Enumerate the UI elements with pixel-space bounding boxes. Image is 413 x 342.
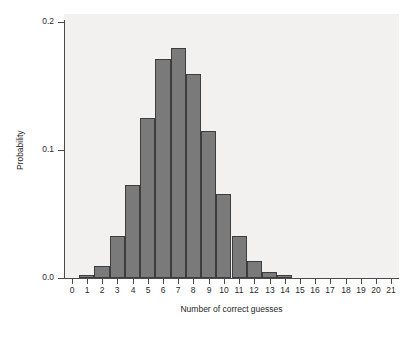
x-axis-tick-mark [254, 279, 255, 284]
probability-histogram-figure: 0.00.10.2 012345678910111213141516171819… [0, 0, 413, 342]
bar [232, 236, 247, 278]
x-axis-tick-mark [391, 279, 392, 284]
x-axis-tick-mark [224, 279, 225, 284]
x-axis-tick-label: 4 [131, 286, 136, 295]
x-axis-tick-mark [163, 279, 164, 284]
x-axis-tick-label: 10 [219, 286, 228, 295]
y-axis-tick-mark [58, 22, 64, 23]
x-axis-tick-mark [148, 279, 149, 284]
x-axis-tick-label: 19 [356, 286, 365, 295]
bar [94, 266, 109, 278]
bar [125, 185, 140, 278]
bar [171, 48, 186, 278]
bar [186, 74, 201, 278]
bar [110, 236, 125, 278]
x-axis-tick-label: 16 [310, 286, 319, 295]
x-axis-tick-mark [315, 279, 316, 284]
x-axis-tick-label: 2 [100, 286, 105, 295]
y-axis-tick-label: 0.0 [26, 273, 54, 282]
x-axis-tick-label: 3 [115, 286, 120, 295]
x-axis-tick-label: 0 [70, 286, 75, 295]
x-axis-tick-mark [270, 279, 271, 284]
x-axis-tick-label: 12 [249, 286, 258, 295]
x-axis-tick-label: 6 [161, 286, 166, 295]
x-axis-tick-mark [178, 279, 179, 284]
x-axis-tick-label: 20 [371, 286, 380, 295]
x-axis-tick-label: 15 [295, 286, 304, 295]
x-axis-tick-mark [72, 279, 73, 284]
x-axis-tick-mark [102, 279, 103, 284]
x-axis-tick-mark [193, 279, 194, 284]
x-axis-tick-mark [346, 279, 347, 284]
bar [140, 118, 155, 278]
x-axis-tick-label: 5 [146, 286, 151, 295]
y-axis-tick-label: 0.2 [26, 17, 54, 26]
x-axis-tick-label: 9 [207, 286, 212, 295]
x-axis-tick-mark [239, 279, 240, 284]
y-axis-tick-mark [58, 278, 64, 279]
bar [155, 59, 170, 278]
x-axis-tick-label: 1 [85, 286, 90, 295]
x-axis-tick-mark [117, 279, 118, 284]
x-axis-tick-label: 21 [386, 286, 395, 295]
x-axis-tick-label: 7 [176, 286, 181, 295]
bar [247, 261, 262, 278]
x-axis-tick-mark [300, 279, 301, 284]
x-axis-tick-mark [209, 279, 210, 284]
x-axis-tick-mark [361, 279, 362, 284]
y-axis-line [64, 20, 65, 279]
x-axis-tick-mark [285, 279, 286, 284]
x-axis-tick-label: 11 [235, 286, 244, 295]
x-axis-tick-label: 8 [191, 286, 196, 295]
x-axis-tick-label: 18 [341, 286, 350, 295]
y-axis-title: Probability [16, 90, 25, 210]
x-axis-tick-label: 17 [325, 286, 334, 295]
x-axis-title: Number of correct guesses [64, 305, 399, 314]
x-axis-tick-label: 13 [265, 286, 274, 295]
x-axis-line [64, 278, 399, 279]
x-axis-tick-mark [87, 279, 88, 284]
bar [216, 194, 231, 278]
x-axis-tick-mark [376, 279, 377, 284]
y-axis-tick-mark [58, 150, 64, 151]
x-axis-tick-mark [330, 279, 331, 284]
x-axis-tick-mark [133, 279, 134, 284]
bar [201, 131, 216, 278]
y-axis-tick-label: 0.1 [26, 145, 54, 154]
x-axis-tick-label: 14 [280, 286, 289, 295]
